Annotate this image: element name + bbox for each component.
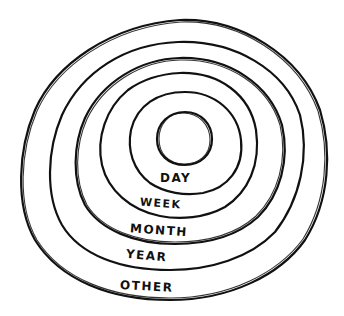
label-day: DAY [160, 171, 191, 185]
ring-outer [21, 20, 327, 300]
ring-week [100, 73, 257, 218]
label-other: OTHER [120, 278, 174, 295]
ring-outer-trace [23, 22, 325, 298]
label-month: MONTH [130, 221, 189, 239]
label-year: YEAR [124, 247, 167, 265]
ring-month [76, 58, 285, 244]
label-week: WEEK [140, 196, 182, 212]
concentric-rings-diagram: DAY WEEK MONTH YEAR OTHER [0, 0, 344, 316]
ring-core-trace [159, 113, 210, 164]
